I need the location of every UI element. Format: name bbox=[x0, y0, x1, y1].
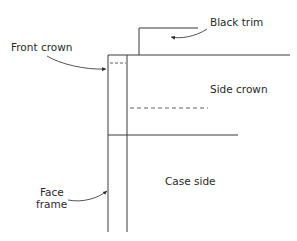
label-face-frame-line2: frame bbox=[36, 198, 67, 210]
front-crown-leader-arrow bbox=[47, 56, 106, 69]
label-front-crown: Front crown bbox=[11, 41, 72, 53]
black-trim-shape bbox=[139, 28, 198, 55]
label-side-crown: Side crown bbox=[210, 83, 268, 95]
label-case-side: Case side bbox=[165, 175, 216, 187]
crown-molding-diagram: Black trim Front crown Side crown Case s… bbox=[0, 0, 297, 241]
label-face-frame-line1: Face bbox=[40, 186, 64, 198]
black-trim-leader-arrow bbox=[171, 29, 207, 38]
face-frame-leader-arrow bbox=[68, 191, 107, 201]
label-black-trim: Black trim bbox=[210, 16, 263, 28]
